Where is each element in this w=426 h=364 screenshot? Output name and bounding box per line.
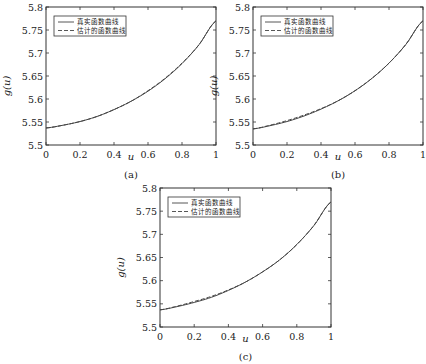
estimated-curve — [253, 21, 423, 129]
y-tick-label: 5.6 — [28, 94, 43, 105]
true-curve — [160, 202, 331, 310]
y-tick-label: 5.7 — [142, 229, 157, 240]
y-tick-label: 5.65 — [229, 71, 250, 82]
y-tick-label: 5.8 — [235, 2, 250, 13]
y-tick-label: 5.8 — [28, 2, 43, 13]
y-tick-label: 5.55 — [22, 117, 43, 128]
x-tick-label: 0.6 — [347, 149, 362, 160]
y-tick-label: 5.7 — [235, 48, 250, 59]
legend: 真实函数曲线估计的函数曲线 — [261, 16, 333, 36]
y-tick-label: 5.6 — [235, 94, 250, 105]
figure: 00.20.40.60.815.55.555.65.655.75.755.8ug… — [0, 0, 426, 364]
x-tick-label: 0.8 — [174, 149, 189, 160]
subplot-b: 00.20.40.60.815.55.555.65.655.75.755.8ug… — [208, 2, 426, 181]
subplot-c: 00.20.40.60.815.55.555.65.655.75.755.8ug… — [115, 183, 334, 363]
x-tick-label: 0 — [157, 331, 163, 342]
y-tick-label: 5.65 — [136, 252, 157, 263]
legend: 真实函数曲线估计的函数曲线 — [168, 197, 240, 217]
panel-caption: (b) — [331, 169, 345, 180]
x-tick-label: 0.2 — [72, 149, 87, 160]
legend-label: 真实函数曲线 — [284, 17, 326, 26]
y-axis-label: g(u) — [208, 76, 219, 97]
y-tick-label: 5.55 — [136, 298, 157, 309]
x-tick-label: 0.4 — [313, 149, 328, 160]
y-tick-label: 5.5 — [235, 140, 250, 151]
legend-label: 估计的函数曲线 — [284, 26, 333, 35]
subplot-a: 00.20.40.60.815.55.555.65.655.75.755.8ug… — [1, 2, 219, 181]
x-tick-label: 1 — [213, 149, 219, 160]
true-curve — [46, 21, 216, 128]
panel-caption: (a) — [124, 169, 138, 180]
legend-label: 真实函数曲线 — [77, 17, 119, 26]
x-tick-label: 0 — [43, 149, 49, 160]
y-axis-label: g(u) — [115, 257, 126, 278]
legend-label: 估计的函数曲线 — [191, 207, 240, 216]
estimated-curve — [160, 202, 331, 310]
y-tick-label: 5.55 — [229, 117, 250, 128]
x-axis-label: u — [128, 151, 134, 162]
y-tick-label: 5.75 — [229, 25, 250, 36]
x-tick-label: 0.4 — [106, 149, 121, 160]
x-axis-label: u — [242, 333, 248, 344]
x-tick-label: 0.2 — [279, 149, 294, 160]
x-tick-label: 0.6 — [255, 331, 270, 342]
y-tick-label: 5.5 — [142, 322, 157, 333]
x-tick-label: 0.4 — [221, 331, 236, 342]
x-tick-label: 0.2 — [187, 331, 202, 342]
panel-caption: (c) — [239, 351, 253, 362]
x-tick-label: 0.8 — [381, 149, 396, 160]
x-tick-label: 1 — [420, 149, 426, 160]
y-tick-label: 5.7 — [28, 48, 43, 59]
y-tick-label: 5.75 — [22, 25, 43, 36]
x-tick-label: 0 — [250, 149, 256, 160]
legend-label: 估计的函数曲线 — [77, 26, 126, 35]
y-tick-label: 5.6 — [142, 275, 157, 286]
true-curve — [253, 21, 423, 129]
y-tick-label: 5.8 — [142, 183, 157, 194]
x-tick-label: 0.6 — [140, 149, 155, 160]
legend: 真实函数曲线估计的函数曲线 — [54, 16, 126, 36]
x-axis-label: u — [335, 151, 341, 162]
x-tick-label: 0.8 — [289, 331, 304, 342]
y-axis-label: g(u) — [1, 76, 12, 97]
estimated-curve — [46, 21, 216, 128]
y-tick-label: 5.75 — [136, 206, 157, 217]
y-tick-label: 5.65 — [22, 71, 43, 82]
y-tick-label: 5.5 — [28, 140, 43, 151]
x-tick-label: 1 — [328, 331, 334, 342]
legend-label: 真实函数曲线 — [191, 198, 233, 207]
